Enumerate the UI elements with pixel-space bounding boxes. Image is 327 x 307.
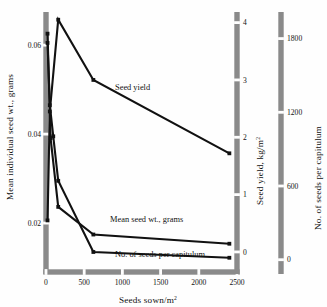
data-point-marker <box>91 250 95 254</box>
axis-tick <box>278 37 284 40</box>
series-annotation: Seed yield <box>115 83 151 92</box>
data-point-marker <box>227 256 231 260</box>
axis-tick <box>278 185 284 188</box>
axis-tick-label: 0 <box>44 278 48 287</box>
data-point-marker <box>227 242 231 246</box>
axis-tick <box>43 133 49 136</box>
axis-tick <box>159 269 162 275</box>
axis-tick <box>121 269 124 275</box>
chart-figure: 0.020.040.06 05001000150020002500 01234 … <box>0 0 327 307</box>
right-outer-axis-title: No. of seeds per capitulum <box>313 126 323 230</box>
axis-tick-label: 0 <box>287 255 291 264</box>
data-point-marker <box>56 205 60 209</box>
data-point-marker <box>227 151 231 155</box>
axis-tick-label: 3 <box>243 76 247 85</box>
axis-tick-label: 1 <box>243 190 247 199</box>
axis-tick <box>278 258 284 261</box>
axis-tick-label: 1200 <box>287 108 302 117</box>
axis-tick-label: 2000 <box>191 278 206 287</box>
axis-tick <box>234 193 240 196</box>
data-point-marker <box>49 136 53 140</box>
axis-tick <box>197 269 200 275</box>
data-point-marker <box>46 32 50 36</box>
axis-tick-label: 2 <box>243 133 247 142</box>
data-point-marker <box>91 233 95 237</box>
axis-tick-label: 4 <box>243 18 247 27</box>
chart-canvas: 0.020.040.06 05001000150020002500 01234 … <box>0 0 327 307</box>
data-point-marker <box>91 78 95 82</box>
axis-tick-label: 500 <box>79 278 91 287</box>
axis-tick <box>234 79 240 82</box>
axis-tick-label: 2500 <box>229 278 244 287</box>
x-axis-title: Seeds sown/m2 <box>119 295 177 305</box>
data-point-marker <box>56 18 60 22</box>
axis-tick-label: 1500 <box>153 278 168 287</box>
data-point-marker <box>56 179 60 183</box>
left-axis-title: Mean individual seed wt., grams <box>5 74 15 200</box>
axis-tick <box>278 111 284 114</box>
axis-tick-label: 1000 <box>115 278 130 287</box>
axis-tick-label: 0.02 <box>28 219 41 228</box>
series-annotation: Mean seed wt., grams <box>110 215 183 224</box>
axis-tick-label: 600 <box>287 182 299 191</box>
data-point-marker <box>46 219 50 223</box>
axis-tick-label: 0 <box>243 248 247 257</box>
axis-tick-label: 1800 <box>287 34 302 43</box>
axis-tick-label: 0.04 <box>28 130 41 139</box>
axis-tick <box>234 136 240 139</box>
axis-tick <box>234 251 240 254</box>
axis-tick-label: 0.06 <box>28 41 41 50</box>
axis-tick <box>234 21 240 24</box>
series-annotation: No. of seeds per capitulum <box>115 250 205 259</box>
axis-tick <box>45 269 48 275</box>
axis-tick <box>83 269 86 275</box>
right-inner-axis-title: Seed yield, kg/m2 <box>255 137 265 205</box>
